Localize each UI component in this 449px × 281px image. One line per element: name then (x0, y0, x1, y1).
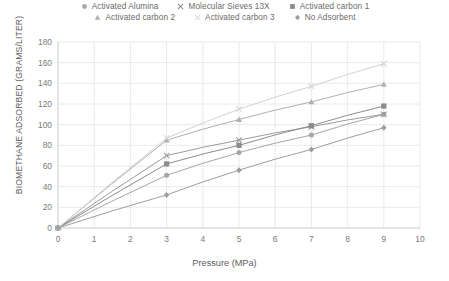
series-line-6 (58, 128, 384, 228)
x-tick-label: 8 (345, 234, 350, 244)
series-line-1 (58, 114, 384, 228)
x-tick-label: 9 (381, 234, 386, 244)
data-point-square (164, 161, 169, 166)
data-point-square (381, 103, 386, 108)
data-point-diamond (381, 125, 387, 131)
y-tick-label: 100 (38, 120, 52, 130)
data-point-triangle (381, 81, 387, 86)
data-point-diamond (309, 146, 315, 152)
x-tick-label: 6 (273, 234, 278, 244)
x-tick-label: 5 (237, 234, 242, 244)
x-tick-label: 0 (56, 234, 61, 244)
data-point-diamond (236, 167, 242, 173)
x-tick-label: 3 (164, 234, 169, 244)
x-tick-label: 1 (92, 234, 97, 244)
y-tick-label: 180 (38, 37, 52, 47)
data-point-circle (309, 133, 314, 138)
x-tick-label: 7 (309, 234, 314, 244)
data-point-circle (164, 173, 169, 178)
y-tick-label: 60 (43, 161, 53, 171)
x-tick-label: 10 (415, 234, 425, 244)
y-tick-label: 20 (43, 202, 53, 212)
chart-container: Activated AluminaMolecular Sieves 13XAct… (0, 0, 449, 281)
x-tick-label: 4 (200, 234, 205, 244)
data-point-diamond (164, 192, 170, 198)
y-tick-label: 80 (43, 140, 53, 150)
y-tick-label: 40 (43, 182, 53, 192)
x-tick-label: 2 (128, 234, 133, 244)
series-line-2 (58, 114, 384, 228)
series-line-4 (58, 84, 384, 228)
y-tick-label: 160 (38, 58, 52, 68)
y-tick-label: 0 (47, 223, 52, 233)
data-point-circle (237, 150, 242, 155)
y-tick-label: 120 (38, 99, 52, 109)
y-tick-label: 140 (38, 78, 52, 88)
data-point-square (236, 143, 241, 148)
data-point-square (309, 123, 314, 128)
plot-area: 020406080100120140160180012345678910 (0, 0, 449, 281)
